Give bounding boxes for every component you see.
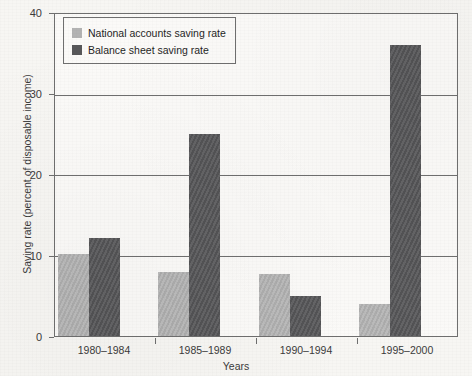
x-tick-label-1985-1989: 1985–1989 — [179, 344, 232, 356]
y-tick-mark-0 — [49, 337, 54, 338]
x-tick-label-1980-1984: 1980–1984 — [78, 344, 131, 356]
bar-chart: 40 30 20 10 0 Saving rate (percent of di… — [0, 0, 472, 376]
legend: National accounts saving rate Balance sh… — [63, 17, 236, 64]
legend-entry-national: National accounts saving rate — [72, 24, 227, 41]
x-tick-label-1995-2000: 1995–2000 — [381, 344, 434, 356]
y-tick-label-0: 0 — [0, 331, 42, 343]
legend-swatch-icon-balance — [72, 45, 82, 55]
y-tick-label-40: 40 — [0, 7, 42, 19]
bar-1985-1989-national — [158, 272, 189, 336]
bar-1980-1984-balance — [89, 238, 120, 336]
legend-entry-balance: Balance sheet saving rate — [72, 41, 227, 58]
x-tick-mark-2 — [256, 338, 257, 344]
bar-1990-1994-balance — [290, 296, 321, 336]
bar-1980-1984-national — [58, 254, 89, 336]
bar-1985-1989-balance — [189, 134, 220, 336]
bar-1995-2000-balance — [390, 45, 421, 336]
y-axis-title: Saving rate (percent of disposable incom… — [21, 29, 33, 319]
x-tick-mark-1 — [155, 338, 156, 344]
legend-swatch-icon-national — [72, 28, 82, 38]
legend-label-balance: Balance sheet saving rate — [88, 44, 209, 56]
x-tick-label-1990-1994: 1990–1994 — [280, 344, 333, 356]
x-tick-mark-3 — [357, 338, 358, 344]
bar-1995-2000-national — [359, 304, 390, 336]
bar-1990-1994-national — [259, 274, 290, 336]
x-axis-title: Years — [0, 360, 472, 372]
legend-label-national: National accounts saving rate — [88, 27, 226, 39]
